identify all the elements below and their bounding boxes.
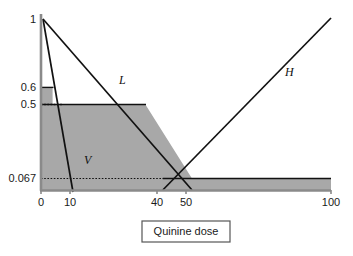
y-tick-label-1: 1 — [30, 13, 36, 25]
quinine-dose-chart: 1 0.6 0.5 0.067 0 10 40 50 100 L V H Qui… — [0, 0, 353, 256]
y-tick-label-0point067: 0.067 — [8, 172, 36, 184]
x-axis-label: Quinine dose — [154, 225, 219, 237]
x-tick-label-50: 50 — [180, 196, 192, 208]
x-tick-label-40: 40 — [151, 196, 163, 208]
y-tick-label-0point6: 0.6 — [21, 81, 36, 93]
x-tick-label-10: 10 — [64, 196, 76, 208]
x-tick-label-0: 0 — [38, 196, 44, 208]
x-tick-label-100: 100 — [322, 196, 340, 208]
x-axis-caption-box: Quinine dose — [142, 221, 230, 242]
curve-label-H: H — [284, 65, 295, 79]
curve-label-L: L — [118, 73, 126, 87]
y-tick-label-0point5: 0.5 — [21, 98, 36, 110]
